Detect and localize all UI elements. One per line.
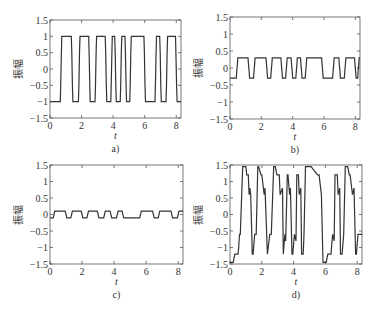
x-axis-label: t bbox=[294, 131, 297, 142]
x-tick-label: 8 bbox=[174, 120, 179, 131]
x-tick-label: 0 bbox=[48, 266, 53, 277]
panel-label: c) bbox=[113, 289, 121, 301]
y-tick-label: −1 bbox=[217, 97, 228, 108]
y-tick-label: −1.5 bbox=[210, 114, 228, 125]
subplot-a: 024681.510.50−0.5−1−1.5t振幅a) bbox=[12, 15, 181, 156]
plot-frame bbox=[230, 17, 360, 119]
y-axis-label: 振幅 bbox=[192, 205, 204, 225]
y-tick-label: 0.5 bbox=[36, 193, 49, 204]
y-tick-label: −0.5 bbox=[210, 226, 228, 237]
panel-label: b) bbox=[291, 144, 299, 156]
x-tick-label: 6 bbox=[321, 121, 326, 132]
y-tick-label: 0.5 bbox=[216, 46, 229, 57]
signal-line bbox=[230, 58, 360, 78]
x-axis-label: t bbox=[114, 130, 117, 141]
x-tick-label: 2 bbox=[80, 266, 85, 277]
y-tick-label: 1.5 bbox=[36, 15, 49, 26]
y-tick-label: 0.5 bbox=[216, 193, 229, 204]
x-tick-label: 6 bbox=[142, 120, 147, 131]
x-tick-label: 2 bbox=[259, 266, 264, 277]
y-axis-label: 振幅 bbox=[12, 205, 24, 225]
y-tick-label: 1 bbox=[223, 29, 228, 40]
subplot-d: 024681.510.50−0.5−1−1.5t振幅d) bbox=[192, 160, 362, 302]
signal-line bbox=[230, 167, 362, 263]
y-tick-label: 0 bbox=[223, 63, 228, 74]
x-tick-label: 8 bbox=[353, 121, 358, 132]
y-tick-label: −1 bbox=[37, 242, 48, 253]
y-tick-label: −0.5 bbox=[210, 80, 228, 91]
plot-frame bbox=[50, 165, 183, 264]
x-tick-label: 2 bbox=[259, 121, 264, 132]
x-tick-label: 8 bbox=[176, 266, 181, 277]
x-axis-label: t bbox=[295, 276, 298, 287]
x-tick-label: 6 bbox=[144, 266, 149, 277]
subplot-c: 024681.510.50−0.5−1−1.5t振幅c) bbox=[12, 160, 183, 302]
panel-label: d) bbox=[292, 289, 300, 301]
subplot-b: 024681.510.50−0.5−1−1.5t振幅b) bbox=[192, 12, 360, 157]
x-tick-label: 0 bbox=[48, 120, 53, 131]
y-tick-label: 1 bbox=[223, 176, 228, 187]
y-tick-label: 1.5 bbox=[216, 160, 229, 171]
panel-label: a) bbox=[112, 143, 120, 155]
x-tick-label: 2 bbox=[79, 120, 84, 131]
y-tick-label: 0 bbox=[223, 209, 228, 220]
y-axis-label: 振幅 bbox=[12, 59, 24, 79]
x-tick-label: 6 bbox=[323, 266, 328, 277]
y-tick-label: −0.5 bbox=[30, 226, 48, 237]
y-tick-label: 1.5 bbox=[216, 12, 229, 23]
x-tick-label: 0 bbox=[228, 121, 233, 132]
x-tick-label: 0 bbox=[228, 266, 233, 277]
y-axis-label: 振幅 bbox=[192, 58, 204, 78]
y-tick-label: −0.5 bbox=[30, 80, 48, 91]
y-tick-label: −1.5 bbox=[210, 259, 228, 270]
y-tick-label: 1 bbox=[43, 31, 48, 42]
x-axis-label: t bbox=[115, 276, 118, 287]
y-tick-label: 0 bbox=[43, 209, 48, 220]
signal-line bbox=[50, 211, 183, 218]
y-tick-label: −1 bbox=[217, 242, 228, 253]
y-tick-label: −1.5 bbox=[30, 113, 48, 124]
signal-line bbox=[50, 36, 181, 101]
y-tick-label: −1.5 bbox=[30, 259, 48, 270]
x-tick-label: 8 bbox=[355, 266, 360, 277]
y-tick-label: 0.5 bbox=[36, 47, 49, 58]
y-tick-label: 0 bbox=[43, 64, 48, 75]
y-tick-label: 1 bbox=[43, 176, 48, 187]
y-tick-label: 1.5 bbox=[36, 160, 49, 171]
figure: 024681.510.50−0.5−1−1.5t振幅a) 024681.510.… bbox=[0, 0, 374, 315]
y-tick-label: −1 bbox=[37, 96, 48, 107]
